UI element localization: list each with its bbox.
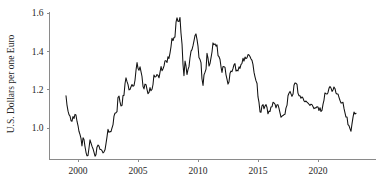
x-tick-label: 2020 — [309, 166, 328, 176]
chart-canvas: 1.01.21.41.6 20002005201020152020 U.S. D… — [0, 0, 383, 193]
y-tick-label: 1.2 — [32, 85, 44, 95]
y-tick-label: 1.6 — [32, 8, 44, 18]
y-axis-label: U.S. Dollars per one Euro — [6, 34, 16, 133]
axes-group — [47, 12, 376, 162]
x-tick-label: 2010 — [189, 166, 208, 176]
exchange-rate-chart: 1.01.21.41.6 20002005201020152020 U.S. D… — [0, 0, 383, 193]
tick-label-group: 1.01.21.41.6 20002005201020152020 — [32, 8, 328, 175]
x-tick-label: 2000 — [69, 166, 88, 176]
x-axis-tick-labels: 20002005201020152020 — [69, 166, 328, 176]
x-tick-label: 2015 — [249, 166, 268, 176]
y-tick-label: 1.4 — [32, 47, 44, 57]
exchange-rate-line — [66, 17, 356, 156]
x-tick-label: 2005 — [129, 166, 148, 176]
plot-area — [66, 17, 356, 156]
y-axis-tick-labels: 1.01.21.41.6 — [32, 8, 44, 133]
y-tick-label: 1.0 — [32, 123, 44, 133]
